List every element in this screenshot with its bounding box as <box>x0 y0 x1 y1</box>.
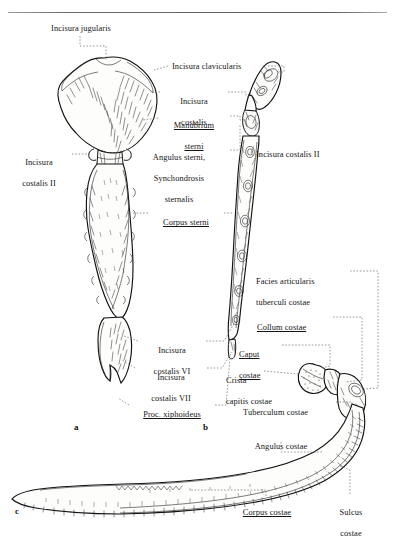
label-text-line-1: Caput <box>239 350 259 359</box>
label-collum-costae: Collum costae <box>257 313 337 334</box>
label-text: Incisura costalis II <box>256 150 320 159</box>
label-angulus-sterni-synchondrosis: Angulus sterni, Synchondrosis sternalis <box>131 143 227 205</box>
figure-letter-b: b <box>203 422 208 432</box>
label-text: Incisura jugularis <box>51 24 111 33</box>
label-text-line-2: costae <box>340 529 361 538</box>
label-facies-articularis-tuberculi-costae: Facies articularis tuberculi costae <box>256 267 354 309</box>
label-text-line-1: Sulcus <box>340 508 363 517</box>
label-corpus-sterni: Corpus sterni <box>150 208 222 229</box>
label-text-line-1: Angulus sterni, <box>153 153 205 162</box>
label-text-line-2: costalis II <box>22 179 56 188</box>
label-incisura-costalis-ii-right: Incisura costalis II <box>256 150 366 160</box>
label-text-line-2: tuberculi costae <box>256 298 310 307</box>
label-incisura-costalis-vii: Incisura costalis VII <box>137 363 205 405</box>
label-text-line-1: Crista <box>226 376 247 385</box>
label-incisura-costalis-ii-left: Incisura costalis II <box>8 148 70 190</box>
label-text-line-1: Incisura <box>25 158 53 167</box>
label-text-line-1: Manubrium <box>174 121 214 130</box>
label-text-line-2: Synchondrosis <box>154 174 204 183</box>
label-text: Corpus sterni <box>163 218 209 227</box>
label-proc-xiphoideus: Proc. xiphoideus <box>131 400 213 421</box>
label-sulcus-costae: Sulcus costae <box>327 498 375 540</box>
label-angulus-costae: Angulus costae <box>240 432 322 453</box>
label-text: Angulus costae <box>255 442 308 451</box>
label-text: Proc. xiphoideus <box>143 410 201 419</box>
label-text-line-3: sternalis <box>165 195 194 204</box>
sternum-ventral-figure <box>58 57 157 383</box>
label-tuberculum-costae: Tuberculum costae <box>243 398 339 419</box>
label-text-line-1: Incisura <box>158 346 186 355</box>
label-text: Tuberculum costae <box>243 408 308 417</box>
anatomy-plate: Incisura jugularis Incisura clavicularis… <box>0 0 395 543</box>
label-corpus-costae: Corpus costae <box>228 498 306 519</box>
label-incisura-clavicularis: Incisura clavicularis <box>172 62 268 72</box>
figure-letter-a: a <box>74 422 79 432</box>
label-text: Incisura clavicularis <box>172 62 241 71</box>
label-text-line-1: Incisura <box>180 97 208 106</box>
label-text: Collum costae <box>257 323 306 332</box>
label-incisura-jugularis: Incisura jugularis <box>22 24 140 34</box>
label-text-line-1: Facies articularis <box>256 277 315 286</box>
figure-letter-c: c <box>15 506 19 516</box>
label-text-line-1: Incisura <box>157 373 185 382</box>
label-text: Corpus costae <box>243 508 291 517</box>
